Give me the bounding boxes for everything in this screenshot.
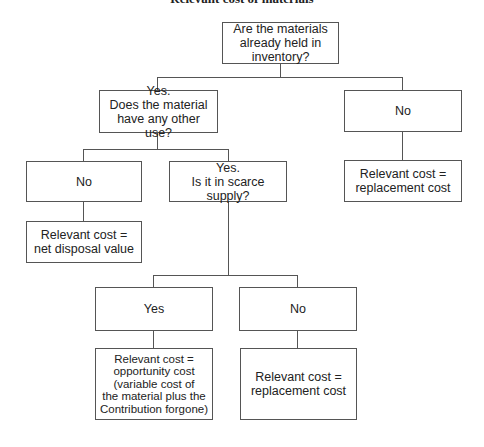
connector — [83, 149, 229, 150]
node-text: Relevant cost = replacement cost — [251, 370, 346, 398]
connector — [280, 64, 281, 77]
node-root-question: Are the materials already held in invent… — [222, 22, 339, 64]
connector — [153, 275, 154, 287]
node-text: No — [290, 302, 306, 316]
connector — [83, 202, 84, 221]
node-scarce-yes: Yes — [95, 287, 213, 331]
connector — [402, 132, 403, 160]
node-text: Relevant cost = replacement cost — [355, 167, 450, 195]
node-text: Relevant cost = net disposal value — [34, 228, 134, 256]
node-text: Yes. Does the material have any other us… — [103, 84, 214, 140]
node-not-in-inventory: No — [344, 90, 462, 132]
connector — [228, 149, 229, 161]
node-replacement-cost-result-2: Relevant cost = replacement cost — [240, 348, 357, 420]
node-no-other-use: No — [26, 161, 142, 202]
connector — [157, 77, 403, 78]
connector — [297, 331, 298, 348]
diagram-title: Relevant cost of materials — [0, 0, 484, 7]
node-other-use-question: Yes. Does the material have any other us… — [99, 90, 218, 133]
node-scarce-supply-question: Yes. Is it in scarce supply? — [169, 161, 287, 202]
node-scarce-no: No — [239, 287, 357, 331]
node-text: Yes. Is it in scarce supply? — [173, 161, 283, 203]
node-replacement-cost-result: Relevant cost = replacement cost — [344, 160, 462, 202]
connector — [153, 275, 298, 276]
connector — [228, 202, 229, 275]
node-text: Yes — [144, 302, 164, 316]
node-opportunity-cost-result: Relevant cost = opportunity cost (variab… — [95, 348, 213, 420]
node-disposal-value-result: Relevant cost = net disposal value — [26, 221, 142, 263]
node-text: Relevant cost = opportunity cost (variab… — [100, 353, 208, 416]
connector — [297, 275, 298, 287]
connector — [402, 77, 403, 90]
node-text: No — [76, 175, 92, 189]
connector — [83, 149, 84, 161]
node-text: Are the materials already held in invent… — [231, 22, 330, 64]
connector — [153, 331, 154, 348]
node-text: No — [395, 104, 411, 118]
